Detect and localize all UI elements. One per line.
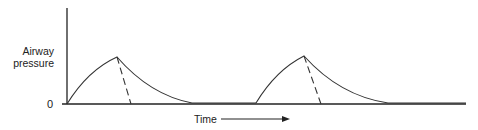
y-axis-label-line-1: Airway [13, 45, 54, 57]
pressure-curve-cycle-1 [67, 57, 256, 104]
dashed-release-line-2 [304, 56, 321, 104]
time-arrow-head-icon [282, 116, 290, 122]
airway-pressure-chart [0, 0, 478, 130]
y-zero-tick-label: 0 [47, 98, 53, 110]
y-axis-label-line-2: pressure [13, 57, 54, 69]
pressure-curve-cycle-2 [256, 56, 466, 103]
x-axis-label: Time [194, 113, 217, 125]
y-axis-label: Airway pressure [13, 45, 54, 69]
